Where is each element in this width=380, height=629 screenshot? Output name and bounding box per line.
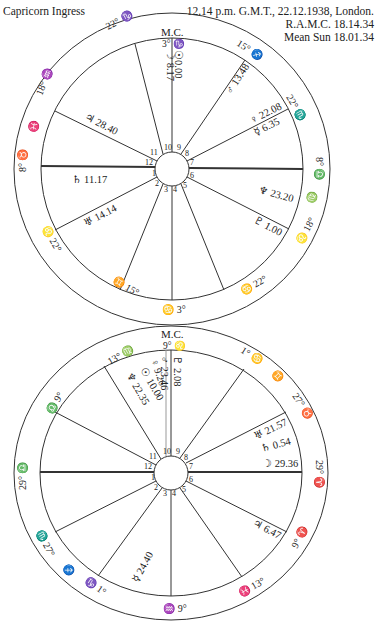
house-3: 3 [164,185,168,194]
cusp-11: 22° ♑ [103,8,134,33]
wheel-top-planets: ☉0.00 ☽ 8.17 ♂ 13.48 ♀ 22.08 ☿ 6.35 ♃ 28… [72,50,295,238]
house-1: 1 [151,473,155,482]
house-11: 11 [150,148,158,157]
cusp-11: 13° ♍ [105,342,136,368]
intercepted-sign-1: ♓ [26,119,41,133]
house-12: 12 [144,462,152,471]
house-9: 9 [176,447,180,456]
cusp-4: ♋ 3° [162,303,186,316]
mc-degree: 9° ♌ [163,340,186,352]
cusp-1: 29° ♎ [16,462,29,491]
house-4: 4 [172,489,176,498]
intercepted-sign-2: ♊ [269,367,287,385]
planet-saturn: ♄ 11.17 [72,174,107,185]
house-3: 3 [163,489,167,498]
cusp-8: 27° ♉ [290,390,317,421]
house-2: 2 [154,483,158,492]
house-7: 7 [190,158,194,167]
house-8: 8 [185,149,189,158]
planet-mercury: ☿ 24.40 [130,550,155,584]
cusp-12: 18° ♒ [33,66,56,97]
house-5: 5 [183,181,187,190]
mc-degree: 3° ♑ [162,38,185,50]
cusp-7: 8° ♎ [313,157,326,181]
house-6: 6 [190,171,194,180]
house-10: 10 [164,143,172,152]
cusp-6: ♌ 18° [293,215,318,246]
planet-jupiter: ♃ 28.40 [83,111,120,137]
planet-mars: ♂ 13.48 [223,61,251,96]
charts-canvas: 10 9 8 7 6 5 4 3 2 1 12 11 M.C. 3° ♑ 22°… [0,0,380,629]
cusp-1: 8° ♉ [16,149,29,173]
house-2: 2 [155,179,159,188]
house-7: 7 [189,462,193,471]
planet-jupiter: ♃ 6.47 [251,517,283,541]
house-10: 10 [163,447,171,456]
cusp-3: ♑ 1° [82,574,109,598]
house-9: 9 [177,143,181,152]
mc-label: M.C. [161,26,184,38]
intercepted-sign-1: ♐ [60,561,78,579]
house-4: 4 [173,185,177,194]
mc-label: M.C. [161,328,184,340]
cusp-5: ♓ 13° [236,574,267,600]
planet-moon: ☽ 8.17 [165,50,176,81]
house-1: 1 [152,169,156,178]
house-8: 8 [184,453,188,462]
cusp-4: ♒ 9° [163,602,187,615]
house-11: 11 [149,452,157,461]
planet-pluto: ♇ 1.00 [252,214,284,238]
cusp-2: ♏ 27° [33,527,58,558]
house-6: 6 [189,475,193,484]
cusp-3: ♊ 15° [111,273,142,299]
house-12: 12 [145,158,153,167]
house-5: 5 [182,485,186,494]
intercepted-sign-2: ♍ [304,190,319,204]
planet-moon: ☽ 29.36 [262,458,298,469]
planet-pluto: ♇ 2.08 [172,356,183,386]
cusp-7: 29° ♈ [313,460,326,489]
cusp-5: ♋ 22° [238,272,269,298]
planet-saturn: ♄ 0.54 [260,435,293,454]
planet-neptune: ♆ 23.20 [257,184,294,204]
